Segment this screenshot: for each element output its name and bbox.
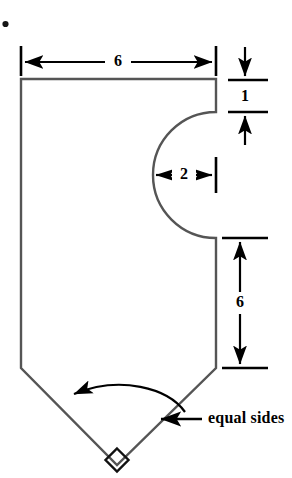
dimension-lower-right: 6 [222,238,268,368]
dimension-notch-radius: 2 [156,157,216,193]
equal-sides-callout: equal sides [74,385,284,427]
dimension-label-top-width: 6 [114,52,122,69]
curved-leader-arrow [74,385,185,412]
dimension-top-width: 6 [21,46,216,76]
dimension-label-lower-right: 6 [236,293,244,310]
stray-dot-marker [2,21,8,27]
shape-outline [21,79,216,465]
equal-sides-label: equal sides [208,409,284,427]
dimension-label-notch-radius: 2 [180,165,188,182]
figure-canvas: 6 1 2 [0,0,292,478]
dimension-upper-right: 1 [228,47,268,145]
dimension-label-upper-right: 1 [241,87,249,104]
geometry-figure: 6 1 2 [0,0,292,478]
right-angle-marker [106,449,129,472]
